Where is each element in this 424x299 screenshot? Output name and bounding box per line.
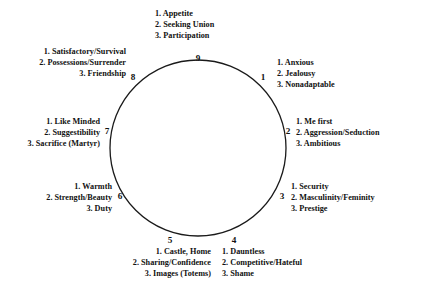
trait-line: 1. Dauntless [222,246,302,257]
trait-line: 1. Like Minded [0,116,100,127]
trait-line: 2. Suggestibility [0,127,100,138]
trait-line: 2. Seeking Union [155,19,214,30]
trait-block-7: 1. Like Minded2. Suggestibility3. Sacrif… [0,116,100,149]
trait-line: 2. Possessions/Surrender [0,57,126,68]
position-number-4: 4 [228,236,240,245]
trait-line: 2. Competitive/Hateful [222,257,302,268]
trait-line: 2. Strength/Beauty [0,192,112,203]
trait-line: 3. Prestige [291,203,375,214]
position-number-5: 5 [164,236,176,245]
trait-line: 3. Nonadaptable [277,79,335,90]
position-number-1: 1 [257,73,269,82]
trait-block-6: 1. Warmth2. Strength/Beauty3. Duty [0,181,112,214]
position-number-9: 9 [192,54,204,63]
trait-line: 3. Ambitious [296,138,380,149]
enneagram-diagram: 11. Anxious2. Jealousy3. Nonadaptable21.… [0,0,424,299]
trait-line: 1. Castle, Home [0,246,211,257]
trait-block-3: 1. Security2. Masculinity/Feminity3. Pre… [291,181,375,214]
position-number-3: 3 [276,192,288,201]
trait-line: 1. Satisfactory/Survival [0,46,126,57]
trait-block-8: 1. Satisfactory/Survival2. Possessions/S… [0,46,126,79]
trait-line: 2. Sharing/Confidence [0,257,211,268]
trait-line: 3. Duty [0,203,112,214]
position-number-7: 7 [101,127,113,136]
main-circle [110,60,286,236]
trait-line: 2. Masculinity/Feminity [291,192,375,203]
trait-line: 1. Appetite [155,8,214,19]
trait-line: 1. Warmth [0,181,112,192]
trait-line: 3. Friendship [0,68,126,79]
trait-block-4: 1. Dauntless2. Competitive/Hateful3. Sha… [222,246,302,279]
trait-block-5: 1. Castle, Home2. Sharing/Confidence3. I… [0,246,211,279]
trait-line: 3. Images (Totems) [0,268,211,279]
trait-line: 1. Anxious [277,57,335,68]
trait-line: 1. Me first [296,116,380,127]
trait-line: 3. Participation [155,30,214,41]
trait-line: 3. Shame [222,268,302,279]
position-number-2: 2 [282,127,294,136]
trait-line: 1. Security [291,181,375,192]
trait-line: 2. Jealousy [277,68,335,79]
trait-block-2: 1. Me first2. Aggression/Seduction3. Amb… [296,116,380,149]
trait-block-1: 1. Anxious2. Jealousy3. Nonadaptable [277,57,335,90]
position-number-8: 8 [127,73,139,82]
trait-line: 3. Sacrifice (Martyr) [0,138,100,149]
trait-block-9: 1. Appetite2. Seeking Union3. Participat… [155,8,214,41]
trait-line: 2. Aggression/Seduction [296,127,380,138]
position-number-6: 6 [114,192,126,201]
